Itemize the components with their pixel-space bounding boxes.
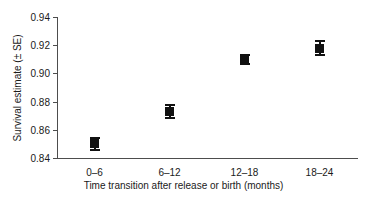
- x-category-label-1: 6–12: [158, 167, 180, 178]
- y-tick-mark: [53, 130, 57, 131]
- x-axis-line: [57, 158, 358, 159]
- y-tick-label: 0.90: [31, 68, 50, 79]
- y-tick-mark: [53, 73, 57, 74]
- y-axis-title: Survival estimate (± SE): [8, 8, 28, 168]
- square-marker-icon: [165, 107, 174, 116]
- error-bar-cap-top: [315, 40, 325, 42]
- y-tick-label: 0.84: [31, 153, 50, 164]
- square-marker-icon: [240, 55, 249, 64]
- y-tick-mark: [53, 17, 57, 18]
- plot-area: 0.94 0.92 0.90 0.88 0.86 0.84: [57, 17, 357, 158]
- y-tick-label: 0.92: [31, 40, 50, 51]
- survival-estimate-chart: Survival estimate (± SE) 0.94 0.92 0.90 …: [0, 0, 367, 203]
- y-tick-mark: [53, 45, 57, 46]
- y-tick-mark: [53, 158, 57, 159]
- y-axis-line: [57, 17, 58, 159]
- x-category-label-3: 18–24: [306, 167, 334, 178]
- x-axis-title: Time transition after release or birth (…: [0, 180, 367, 191]
- x-category-label-0: 0–6: [86, 167, 103, 178]
- x-category-label-2: 12–18: [231, 167, 259, 178]
- y-tick-label: 0.88: [31, 96, 50, 107]
- y-tick-label: 0.94: [31, 12, 50, 23]
- square-marker-icon: [315, 44, 324, 53]
- error-bar-cap-bottom: [165, 117, 175, 119]
- y-tick-mark: [53, 102, 57, 103]
- error-bar-cap-bottom: [90, 149, 100, 151]
- y-tick-label: 0.86: [31, 124, 50, 135]
- error-bar-cap-bottom: [315, 54, 325, 56]
- square-marker-icon: [90, 139, 99, 148]
